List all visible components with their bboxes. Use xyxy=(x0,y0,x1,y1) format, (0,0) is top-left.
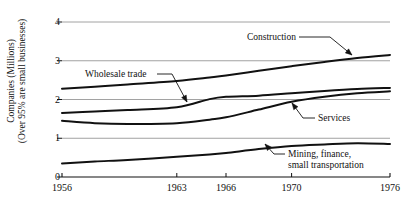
y-tick-marks xyxy=(57,22,62,177)
annotation-label-services: Services xyxy=(318,113,350,123)
annotation-arrowhead-wholesale-trade xyxy=(182,95,187,102)
annotation-label-mining-finance-small-transportation: Mining, finance,small transportation xyxy=(288,149,364,170)
series-line-wholesale-trade xyxy=(62,88,390,113)
series-annotations: ConstructionWholesale tradeServicesMinin… xyxy=(85,32,364,170)
annotation-label-construction: Construction xyxy=(247,32,296,42)
chart-figure: Companies (Millions) (Over 95% are small… xyxy=(0,0,406,211)
annotation-arrowhead-services xyxy=(292,103,298,110)
line-chart-plot: ConstructionWholesale tradeServicesMinin… xyxy=(0,0,406,211)
x-tick-marks xyxy=(177,173,292,177)
annotation-leader-construction xyxy=(299,37,352,55)
annotation-label-wholesale-trade: Wholesale trade xyxy=(85,69,146,79)
